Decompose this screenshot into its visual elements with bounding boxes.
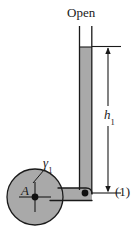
station-point-dot <box>82 190 89 197</box>
dimension-arrow-down-icon <box>105 186 110 193</box>
specific-weight-label: γ1 <box>43 156 52 172</box>
height-subscript: 1 <box>111 117 115 127</box>
station-label: (1) <box>115 185 130 198</box>
tube-fluid-fill <box>80 47 92 200</box>
height-symbol: h <box>104 107 111 122</box>
center-point-dot <box>32 194 39 201</box>
pipe-center-label: A <box>21 184 29 197</box>
figure-drawing <box>0 0 137 236</box>
dimension-arrow-up-icon <box>105 48 110 55</box>
manometer-figure: Open h1 (1) γ1 A <box>0 0 137 236</box>
open-label: Open <box>67 6 95 19</box>
specific-weight-subscript: 1 <box>48 165 52 175</box>
height-label: h1 <box>104 108 115 124</box>
